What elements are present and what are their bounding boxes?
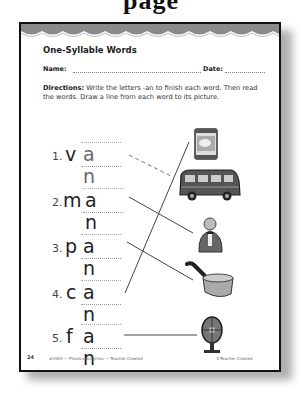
pan-picture-icon[interactable] (185, 260, 237, 300)
worksheet-page: One-Syllable Words Name: Date: Direction… (19, 22, 281, 372)
man-picture-icon[interactable] (196, 216, 226, 256)
cropped-page-heading: page (0, 0, 302, 16)
footer-page-number: 24 (27, 354, 34, 360)
footer-left-text: #3929 — Phonics activities — Teacher Cre… (49, 356, 143, 361)
can-picture-icon[interactable] (193, 127, 219, 161)
footer-right-text: ©Teacher Created (216, 356, 253, 361)
van-picture-icon[interactable] (177, 167, 243, 205)
fan-picture-icon[interactable] (199, 314, 225, 356)
